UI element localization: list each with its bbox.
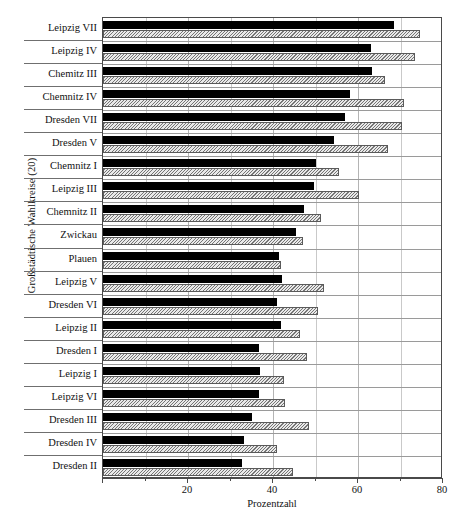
bar-hatched [103,53,415,61]
bar-chart: Großstädtische Wahlkreise (20) Leipzig V… [0,0,460,523]
x-tick-40 [272,478,273,483]
row-separator [103,341,441,342]
bar-hatched [103,261,281,269]
bar-hatched [103,145,388,153]
category-separator [24,340,102,341]
bar-hatched [103,422,309,430]
bar-dark [103,90,350,98]
bar-dark [103,44,371,52]
category-label: Zwickau [24,229,102,241]
row-separator [103,249,441,250]
category-label: Dresden V [24,137,102,149]
x-tick-minor-50 [315,478,316,481]
bar-hatched [103,122,402,130]
bar-dark [103,390,259,398]
category-label: Plauen [24,253,102,265]
bar-dark [103,159,316,167]
x-tick-80 [442,478,443,483]
bar-hatched [103,399,285,407]
x-tick-minor-10 [145,478,146,481]
category-label: Dresden IV [24,437,102,449]
bar-hatched [103,330,300,338]
bar-dark [103,413,252,421]
category-separator [24,432,102,433]
row-separator [103,133,441,134]
x-tick-label-60: 60 [337,484,377,495]
bar-hatched [103,191,359,199]
category-label: Chemnitz IV [24,91,102,103]
row-separator [103,87,441,88]
bar-dark [103,136,334,144]
category-label: Leipzig IV [24,45,102,57]
category-label: Leipzig V [24,276,102,288]
x-tick-minor-70 [400,478,401,481]
category-separator [24,109,102,110]
row-separator [103,202,441,203]
bar-dark [103,436,244,444]
bar-dark [103,21,394,29]
bar-hatched [103,30,420,38]
category-separator [24,455,102,456]
bar-hatched [103,99,404,107]
x-tick-label-40: 40 [252,484,292,495]
category-separator [24,224,102,225]
bar-dark [103,182,314,190]
x-tick-60 [357,478,358,483]
category-label: Leipzig II [24,322,102,334]
bar-hatched [103,468,293,476]
bar-hatched [103,76,385,84]
row-separator [103,364,441,365]
bar-dark [103,113,345,121]
row-separator [103,179,441,180]
bar-dark [103,275,282,283]
x-tick-minor-30 [230,478,231,481]
row-separator [103,387,441,388]
category-separator [24,132,102,133]
row-separator [103,272,441,273]
category-separator [24,155,102,156]
category-label: Leipzig III [24,183,102,195]
row-separator [103,225,441,226]
category-separator [24,178,102,179]
bar-hatched [103,168,339,176]
bar-dark [103,298,277,306]
x-tick-label-20: 20 [167,484,207,495]
category-label: Leipzig VI [24,391,102,403]
category-separator [24,63,102,64]
bar-dark [103,228,296,236]
category-label: Dresden III [24,414,102,426]
row-separator [103,295,441,296]
row-separator [103,156,441,157]
row-separator [103,456,441,457]
x-tick-20 [187,478,188,483]
bar-dark [103,205,304,213]
bar-hatched [103,214,321,222]
category-separator [24,271,102,272]
row-separator [103,64,441,65]
row-separator [103,433,441,434]
plot-area [102,17,442,478]
bar-hatched [103,284,324,292]
bar-dark [103,459,242,467]
x-axis-title: Prozentzahl [102,498,442,509]
category-separator [24,201,102,202]
category-label: Leipzig I [24,368,102,380]
bar-dark [103,67,372,75]
row-separator [103,410,441,411]
category-label: Dresden VI [24,299,102,311]
category-separator [24,386,102,387]
bar-hatched [103,445,277,453]
category-separator [24,86,102,87]
bar-dark [103,344,259,352]
category-separator [24,40,102,41]
category-label: Leipzig VII [24,22,102,34]
category-separator [24,363,102,364]
category-separator [24,248,102,249]
category-label: Dresden VII [24,114,102,126]
bar-hatched [103,237,303,245]
bar-dark [103,367,260,375]
row-separator [103,41,441,42]
x-tick-label-80: 80 [422,484,460,495]
bar-dark [103,321,281,329]
row-separator [103,318,441,319]
